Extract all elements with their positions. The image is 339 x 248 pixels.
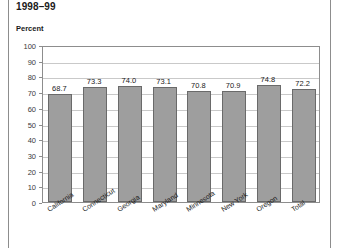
bar-value-label: 72.2: [295, 79, 310, 88]
y-axis-tick-label: 30: [10, 151, 36, 160]
bar-value-label: 74.0: [122, 76, 137, 85]
y-axis-tick-label: 90: [10, 57, 36, 66]
y-axis-tick-mark: [39, 140, 42, 141]
y-axis-tick-mark: [39, 172, 42, 173]
bar-value-label: 73.1: [156, 77, 171, 86]
y-axis-tick-label: 0: [10, 199, 36, 208]
y-axis-tick-mark: [39, 46, 42, 47]
y-axis-tick-label: 10: [10, 183, 36, 192]
page-rule-right: [330, 0, 331, 248]
y-axis-tick-mark: [39, 187, 42, 188]
y-axis-tick-mark: [39, 109, 42, 110]
gridline: [43, 78, 319, 79]
plot-area: [42, 46, 320, 203]
y-axis-tick-mark: [39, 156, 42, 157]
y-axis-tick-label: 100: [10, 42, 36, 51]
bar-value-label: 70.9: [226, 81, 241, 90]
bar: [257, 85, 281, 202]
page-rule-left: [8, 0, 9, 248]
y-axis-tick-label: 40: [10, 136, 36, 145]
chart-figure: 1998–99 Percent 100908070605040302010068…: [0, 0, 339, 248]
y-axis-tick-label: 80: [10, 73, 36, 82]
bar-value-label: 70.8: [191, 81, 206, 90]
y-axis-tick-mark: [39, 125, 42, 126]
y-axis-tick-mark: [39, 93, 42, 94]
bar: [187, 91, 211, 202]
bar-value-label: 68.7: [52, 84, 67, 93]
y-axis-tick-mark: [39, 203, 42, 204]
chart-title: 1998–99: [16, 1, 56, 12]
y-axis-tick-label: 50: [10, 120, 36, 129]
y-axis-unit-label: Percent: [16, 24, 44, 33]
bar: [153, 87, 177, 202]
bar: [118, 86, 142, 202]
y-axis-tick-label: 60: [10, 104, 36, 113]
bar-value-label: 73.3: [87, 77, 102, 86]
bar: [48, 94, 72, 202]
bar: [222, 91, 246, 202]
bar: [292, 89, 316, 202]
y-axis-tick-label: 20: [10, 167, 36, 176]
bar: [83, 87, 107, 202]
gridline: [43, 63, 319, 64]
y-axis-tick-mark: [39, 77, 42, 78]
bar-value-label: 74.8: [261, 75, 276, 84]
y-axis-tick-label: 70: [10, 89, 36, 98]
y-axis-tick-mark: [39, 62, 42, 63]
